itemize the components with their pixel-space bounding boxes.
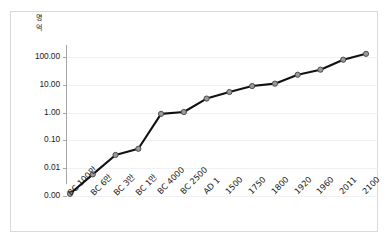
y-axis-tick-mark — [63, 168, 67, 169]
x-axis-tick-label: 1920 — [292, 174, 314, 196]
x-axis-tick-label: 2011 — [337, 174, 359, 196]
x-axis-tick-label: AD 1 — [201, 175, 222, 196]
x-axis-tick-label: 2100 — [360, 174, 382, 196]
x-axis-tick-labels: BC 100만BC 6만BC 3만BC 1만BC 4000BC 2500AD 1… — [0, 0, 389, 244]
x-axis-tick-label: 1800 — [269, 174, 291, 196]
y-axis-tick-mark — [63, 196, 67, 197]
x-axis-tick-label: 1500 — [223, 174, 245, 196]
y-axis-tick-mark — [63, 113, 67, 114]
x-axis-tick-label: BC 3만 — [110, 170, 137, 197]
y-axis-tick-mark — [63, 140, 67, 141]
y-axis-tick-mark — [63, 85, 67, 86]
y-axis-tick-mark — [63, 57, 67, 58]
x-axis-tick-label: 1750 — [246, 174, 268, 196]
x-axis-tick-label: BC 1만 — [132, 170, 159, 197]
x-axis-tick-label: 1960 — [314, 174, 336, 196]
chart-container: 명 억 100.0010.001.000.100.010.00 BC 100만B… — [0, 0, 389, 244]
